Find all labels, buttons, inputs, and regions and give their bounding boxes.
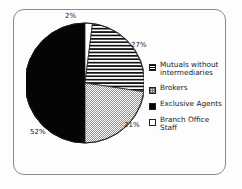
legend-item-mutuals-without-intermediaries: Mutuals without intermediaries <box>149 60 233 78</box>
legend-label-branch-office-staff: Branch Office Staff <box>160 115 209 133</box>
legend-label-exclusive-agents: Exclusive Agents <box>160 99 222 108</box>
legend-item-exclusive-agents: Exclusive Agents <box>149 99 233 110</box>
pie-chart-figure: 2% 27% 21% 52% Mutuals without intermedi… <box>0 0 242 189</box>
stipple-swatch-icon <box>149 87 156 94</box>
legend-label-mutuals-without-intermediaries: Mutuals without intermediaries <box>160 60 218 78</box>
slice-label-branch-office-staff: 2% <box>65 12 76 20</box>
legend-label-brokers: Brokers <box>160 83 188 92</box>
solid-swatch-icon <box>149 103 156 110</box>
empty-swatch-icon <box>149 119 156 126</box>
pie-slice-brokers <box>85 83 144 143</box>
legend-item-branch-office-staff: Branch Office Staff <box>149 115 233 133</box>
chart-legend: Mutuals without intermediaries Brokers E… <box>149 60 233 133</box>
slice-label-mutuals-without-intermediaries: 27% <box>131 41 147 49</box>
stripe-swatch-icon <box>149 64 156 71</box>
pie-slice-mutuals-without-intermediaries <box>85 23 144 91</box>
pie-slice-exclusive-agents <box>26 23 85 143</box>
legend-item-brokers: Brokers <box>149 83 233 94</box>
slice-label-brokers: 21% <box>124 121 140 129</box>
slice-label-exclusive-agents: 52% <box>30 128 46 136</box>
